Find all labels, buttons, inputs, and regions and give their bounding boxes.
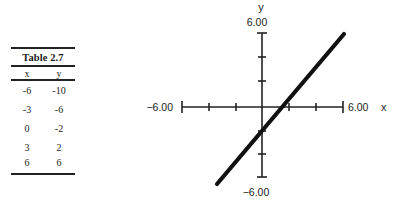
y-axis	[257, 33, 267, 177]
x-axis-label: x	[381, 101, 387, 113]
x-max-label: 6.00	[348, 101, 369, 113]
y-axis-label: y	[258, 1, 264, 13]
line-graph: −6.00 6.00 x 6.00 y −6.00	[0, 0, 397, 204]
y-max-label: 6.00	[247, 16, 268, 28]
x-min-label: −6.00	[146, 101, 173, 113]
y-min-label: −6.00	[243, 186, 270, 198]
